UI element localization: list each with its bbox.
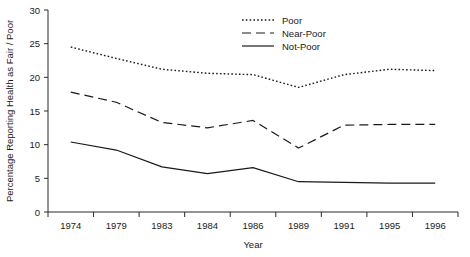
x-axis-title: Year	[243, 239, 262, 250]
y-tick-label: 25	[29, 38, 40, 49]
x-tick-label: 1986	[242, 220, 263, 231]
legend-label-not-poor: Not-Poor	[282, 41, 320, 52]
series-line-poor	[71, 47, 435, 87]
legend-label-near-poor: Near-Poor	[282, 28, 326, 39]
y-tick-label: 5	[35, 173, 40, 184]
y-tick-label: 30	[29, 5, 40, 16]
x-tick-label: 1995	[379, 220, 400, 231]
x-axis-ticks: 197419791983198419861989199119951996	[48, 212, 458, 231]
x-tick-label: 1996	[425, 220, 446, 231]
y-tick-label: 10	[29, 139, 40, 150]
y-axis-title: Percentage Reporting Health as Fair / Po…	[4, 20, 15, 202]
x-tick-label: 1991	[334, 220, 355, 231]
x-tick-label: 1979	[106, 220, 127, 231]
y-axis-ticks: 051015202530	[29, 5, 48, 218]
chart-figure: 051015202530 197419791983198419861989199…	[0, 0, 470, 257]
y-tick-label: 0	[35, 207, 40, 218]
series-group	[71, 47, 435, 183]
x-tick-label: 1989	[288, 220, 309, 231]
y-tick-label: 20	[29, 72, 40, 83]
x-tick-label: 1974	[60, 220, 81, 231]
line-chart: 051015202530 197419791983198419861989199…	[0, 0, 470, 257]
x-tick-label: 1984	[197, 220, 218, 231]
chart-legend: PoorNear-PoorNot-Poor	[242, 15, 326, 52]
x-tick-label: 1983	[151, 220, 172, 231]
series-line-not-poor	[71, 142, 435, 183]
series-line-near-poor	[71, 92, 435, 148]
y-tick-label: 15	[29, 106, 40, 117]
legend-label-poor: Poor	[282, 15, 302, 26]
